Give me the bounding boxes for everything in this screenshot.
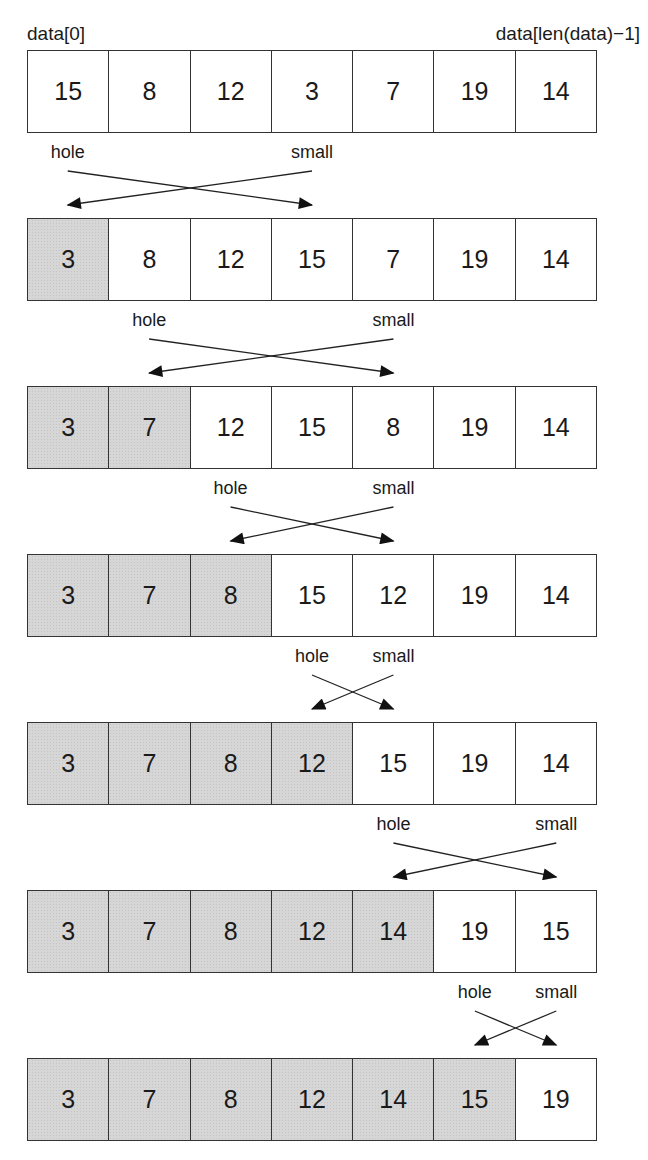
array-cell-sorted: 8 (191, 1059, 272, 1140)
array-cell: 8 (109, 219, 190, 300)
last-index-label: data[len(data)−1] (496, 24, 640, 43)
array-cell-sorted: 3 (28, 387, 109, 468)
array-cell: 14 (516, 219, 596, 300)
hole-pointer-label: hole (376, 815, 410, 833)
small-pointer-label: small (372, 647, 414, 665)
array-cell: 19 (434, 219, 515, 300)
array-cell: 14 (516, 51, 596, 132)
arrow-hole-to-small-icon (312, 675, 393, 709)
arrow-hole-to-small-icon (231, 507, 394, 541)
array-cell-sorted: 3 (28, 219, 109, 300)
array-cell: 12 (353, 555, 434, 636)
array-cell-sorted: 3 (28, 1059, 109, 1140)
array-cell-sorted: 3 (28, 891, 109, 972)
array-cell-sorted: 14 (353, 1059, 434, 1140)
array-cell-sorted: 7 (109, 1059, 190, 1140)
array-cell: 8 (353, 387, 434, 468)
array-cell-sorted: 12 (272, 891, 353, 972)
arrow-small-to-hole-icon (149, 339, 393, 373)
array-row: 37815121914 (27, 554, 597, 637)
arrow-hole-to-small-icon (393, 843, 556, 877)
small-pointer-label: small (372, 479, 414, 497)
array-cell: 7 (353, 219, 434, 300)
array-cell-sorted: 7 (109, 723, 190, 804)
array-cell: 19 (434, 555, 515, 636)
array-cell-sorted: 7 (109, 891, 190, 972)
array-cell: 3 (272, 51, 353, 132)
array-cell: 15 (272, 219, 353, 300)
hole-pointer-label: hole (458, 983, 492, 1001)
arrow-small-to-hole-icon (68, 171, 312, 205)
small-pointer-label: small (291, 143, 333, 161)
array-cell: 14 (516, 387, 596, 468)
array-cell: 19 (434, 387, 515, 468)
array-row: 37812151914 (27, 722, 597, 805)
array-cell: 19 (434, 723, 515, 804)
array-cell-sorted: 7 (109, 387, 190, 468)
arrow-small-to-hole-icon (393, 843, 556, 877)
selection-sort-diagram: data[0] data[len(data)−1] 15812371914381… (0, 0, 648, 1160)
arrow-small-to-hole-icon (231, 507, 394, 541)
array-row: 38121571914 (27, 218, 597, 301)
array-cell: 12 (191, 51, 272, 132)
array-cell: 15 (516, 891, 596, 972)
arrow-small-to-hole-icon (312, 675, 393, 709)
array-cell: 19 (434, 51, 515, 132)
array-cell: 7 (353, 51, 434, 132)
array-cell-sorted: 3 (28, 723, 109, 804)
array-cell: 12 (191, 387, 272, 468)
array-cell-sorted: 8 (191, 555, 272, 636)
small-pointer-label: small (372, 311, 414, 329)
array-cell-sorted: 12 (272, 1059, 353, 1140)
arrow-small-to-hole-icon (475, 1011, 556, 1045)
array-cell-sorted: 8 (191, 891, 272, 972)
array-cell: 14 (516, 555, 596, 636)
array-cell-sorted: 15 (434, 1059, 515, 1140)
arrow-hole-to-small-icon (68, 171, 312, 205)
hole-pointer-label: hole (132, 311, 166, 329)
first-index-label: data[0] (27, 24, 85, 43)
array-cell: 19 (516, 1059, 596, 1140)
array-cell: 15 (353, 723, 434, 804)
array-cell: 14 (516, 723, 596, 804)
array-cell: 8 (109, 51, 190, 132)
array-cell-sorted: 3 (28, 555, 109, 636)
array-cell: 15 (28, 51, 109, 132)
array-cell: 15 (272, 555, 353, 636)
array-cell: 12 (191, 219, 272, 300)
array-row: 37812141519 (27, 1058, 597, 1141)
array-row: 37121581914 (27, 386, 597, 469)
array-cell-sorted: 7 (109, 555, 190, 636)
hole-pointer-label: hole (214, 479, 248, 497)
arrow-hole-to-small-icon (475, 1011, 556, 1045)
array-cell-sorted: 12 (272, 723, 353, 804)
array-cell-sorted: 8 (191, 723, 272, 804)
array-cell: 15 (272, 387, 353, 468)
arrow-hole-to-small-icon (149, 339, 393, 373)
hole-pointer-label: hole (51, 143, 85, 161)
array-cell: 19 (434, 891, 515, 972)
small-pointer-label: small (535, 983, 577, 1001)
array-cell-sorted: 14 (353, 891, 434, 972)
array-row: 15812371914 (27, 50, 597, 133)
small-pointer-label: small (535, 815, 577, 833)
array-row: 37812141915 (27, 890, 597, 973)
hole-pointer-label: hole (295, 647, 329, 665)
